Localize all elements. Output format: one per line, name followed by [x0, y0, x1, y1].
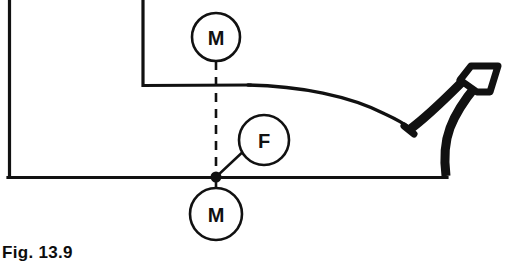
figure-container: M F M Fig. 13.9 [0, 0, 507, 263]
mechanics-diagram: M F M [0, 0, 507, 263]
force-label: F [258, 130, 270, 152]
moment-bottom-balloon: M [190, 188, 242, 240]
moment-bottom-label: M [208, 204, 225, 226]
figure-caption: Fig. 13.9 [2, 243, 73, 263]
moment-top-label: M [208, 27, 225, 49]
force-balloon: F [239, 115, 289, 165]
pedal-pad [460, 66, 498, 92]
pedal-assembly [404, 66, 498, 176]
junction-node-dot [211, 172, 222, 183]
moment-top-balloon: M [192, 13, 240, 61]
